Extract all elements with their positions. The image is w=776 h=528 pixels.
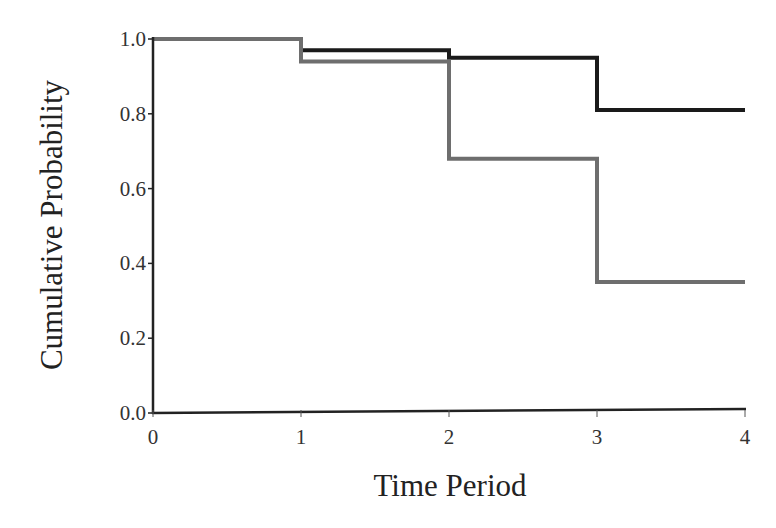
y-tick-label: 0.8 [120, 102, 146, 126]
x-tick-label: 1 [296, 425, 307, 449]
x-tick-label: 0 [148, 425, 159, 449]
y-ticks: 0.00.20.40.60.81.0 [120, 27, 153, 425]
y-tick-label: 1.0 [120, 27, 146, 51]
axes: 0.00.20.40.60.81.0 01234 [120, 27, 751, 449]
y-tick-label: 0.2 [120, 326, 146, 350]
series-line-2 [153, 39, 745, 282]
y-tick-label: 0.6 [120, 177, 146, 201]
x-tick-label: 2 [444, 425, 455, 449]
x-ticks: 01234 [148, 410, 751, 449]
step-chart: 0.00.20.40.60.81.0 01234 Time Period Cum… [0, 0, 776, 528]
x-tick-label: 3 [592, 425, 603, 449]
x-tick-label: 4 [740, 425, 751, 449]
x-axis-title: Time Period [373, 468, 527, 503]
y-tick-label: 0.0 [120, 401, 146, 425]
y-axis-title: Cumulative Probability [34, 79, 69, 370]
y-tick-label: 0.4 [120, 251, 147, 275]
plot-series [153, 39, 745, 282]
